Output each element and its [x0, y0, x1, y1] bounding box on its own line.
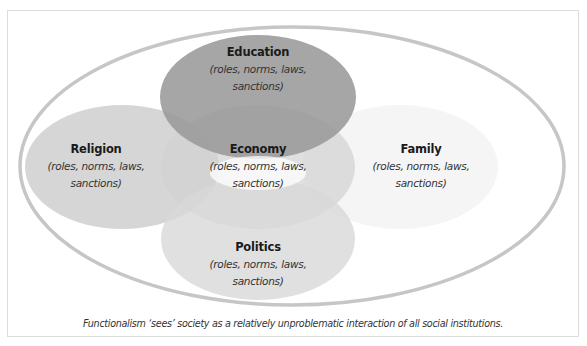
religion-title: Religion — [31, 141, 161, 158]
politics-label: Politics (roles, norms, laws, sanctions) — [193, 239, 323, 290]
religion-desc-line2: sanctions) — [31, 175, 161, 192]
figure-caption: Functionalism ‘sees’ society as a relati… — [7, 318, 579, 329]
education-desc-line1: (roles, norms, laws, — [193, 61, 323, 78]
politics-title: Politics — [193, 239, 323, 256]
religion-label: Religion (roles, norms, laws, sanctions) — [31, 141, 161, 192]
politics-desc-line1: (roles, norms, laws, — [193, 256, 323, 273]
family-desc-line1: (roles, norms, laws, — [356, 158, 486, 175]
family-desc-line2: sanctions) — [356, 175, 486, 192]
religion-desc-line1: (roles, norms, laws, — [31, 158, 161, 175]
education-label: Education (roles, norms, laws, sanctions… — [193, 44, 323, 95]
family-label: Family (roles, norms, laws, sanctions) — [356, 141, 486, 192]
education-title: Education — [193, 44, 323, 61]
family-title: Family — [356, 141, 486, 158]
economy-label: Economy (roles, norms, laws, sanctions) — [193, 141, 323, 192]
economy-title: Economy — [193, 141, 323, 158]
education-desc-line2: sanctions) — [193, 78, 323, 95]
economy-desc-line1: (roles, norms, laws, — [193, 158, 323, 175]
economy-desc-line2: sanctions) — [193, 175, 323, 192]
politics-desc-line2: sanctions) — [193, 273, 323, 290]
